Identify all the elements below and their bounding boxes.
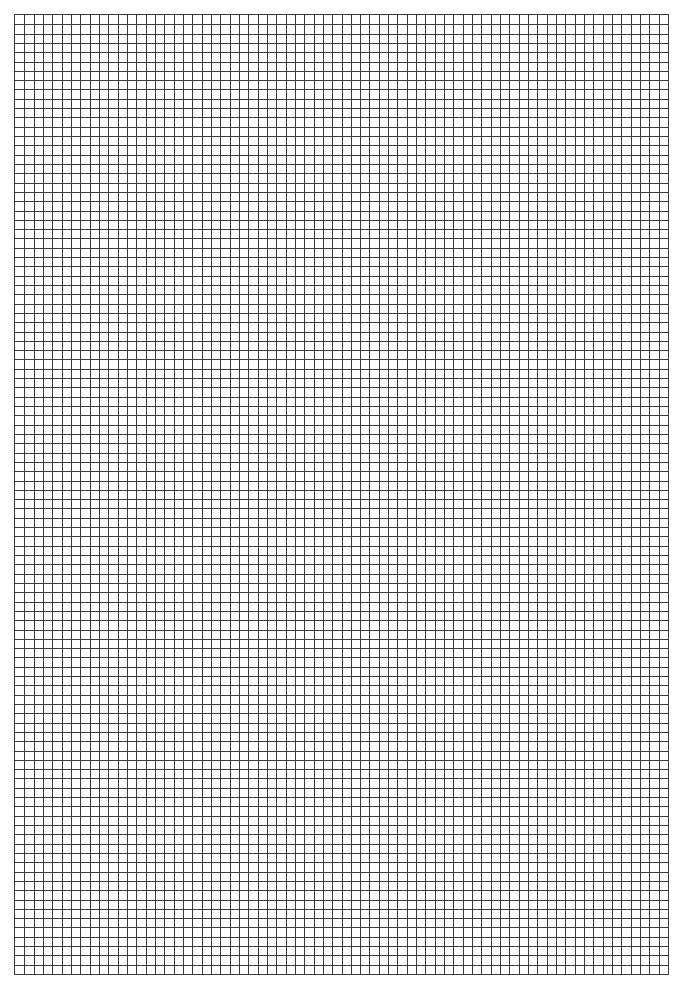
grid-area xyxy=(14,14,669,975)
grid-lines xyxy=(15,15,668,974)
graph-paper-page xyxy=(0,0,686,988)
